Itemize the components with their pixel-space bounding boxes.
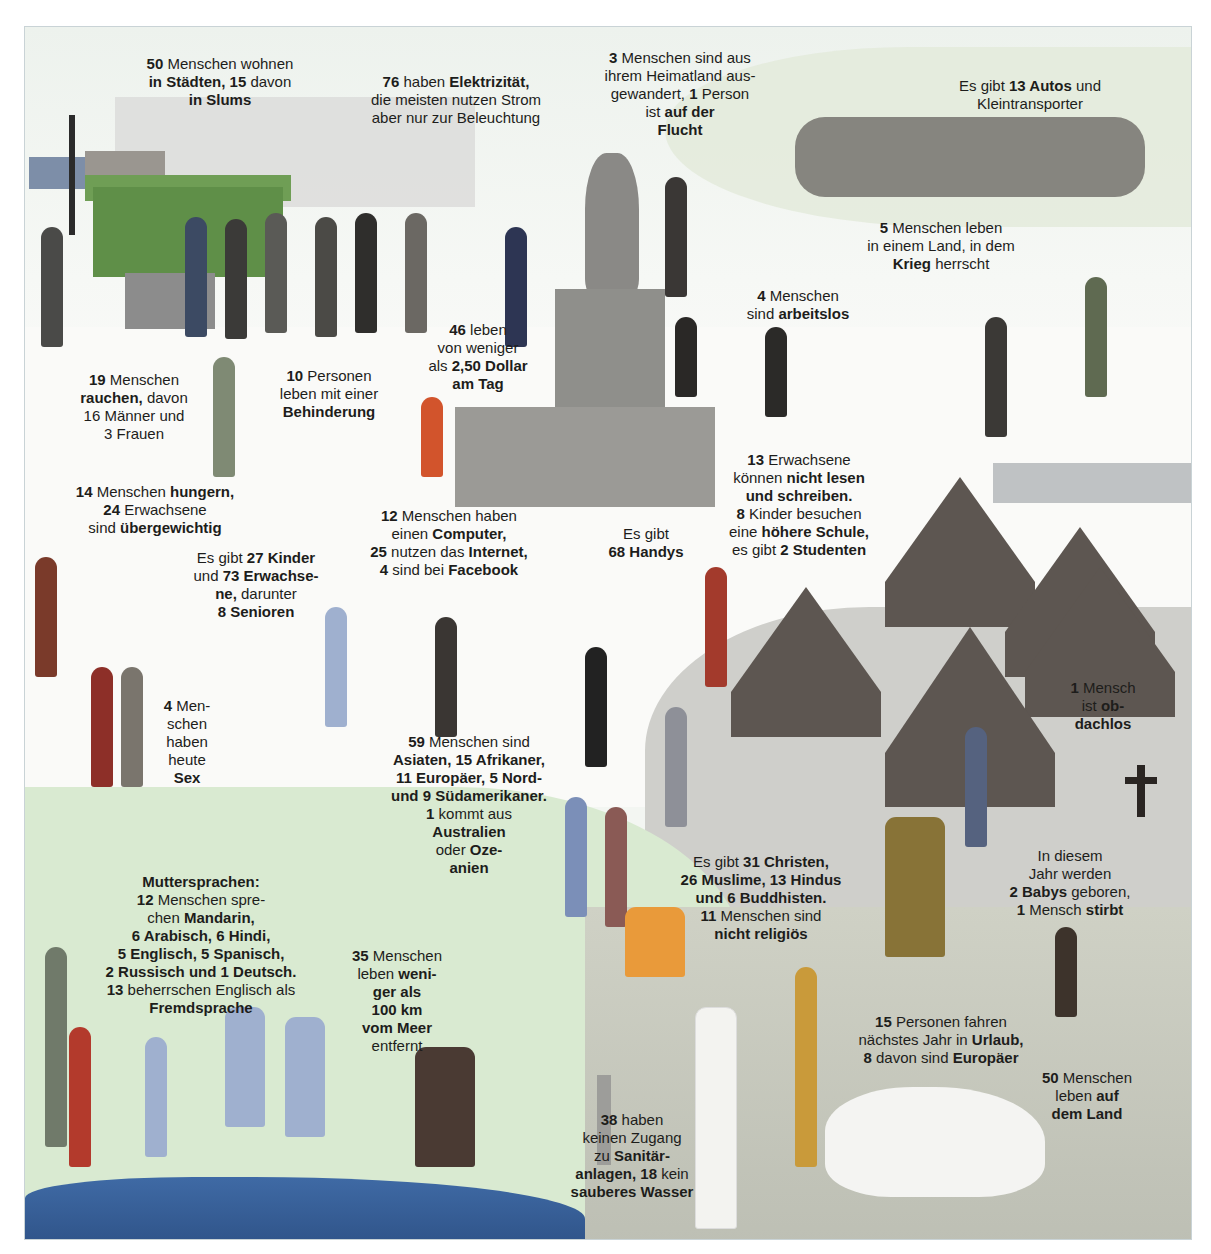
label-sanitation: 38 haben keinen Zugang zu Sanitär- anlag… bbox=[557, 1111, 707, 1201]
person-figure bbox=[1085, 277, 1107, 397]
label-smoking: 19 Menschen rauchen, davon 16 Männer und… bbox=[69, 371, 199, 443]
label-unemployed: 4 Menschen sind arbeitslos bbox=[743, 287, 853, 323]
person-figure bbox=[435, 617, 457, 737]
person-figure bbox=[605, 807, 627, 927]
person-figure bbox=[225, 219, 247, 339]
person-figure bbox=[145, 1037, 167, 1157]
person-figure bbox=[285, 1017, 325, 1137]
person-figure bbox=[225, 1007, 265, 1127]
person-figure bbox=[985, 317, 1007, 437]
label-poverty: 46 leben von weniger als 2,50 Dollar am … bbox=[423, 321, 533, 393]
person-figure bbox=[415, 1047, 475, 1167]
label-sex: 4 Men- schen haben heute Sex bbox=[157, 697, 217, 787]
person-figure bbox=[885, 817, 945, 957]
person-figure bbox=[121, 667, 143, 787]
person-figure bbox=[325, 607, 347, 727]
ox bbox=[825, 1087, 1045, 1197]
infographic-canvas: 50 Menschen wohnen in Städten, 15 davon … bbox=[24, 26, 1192, 1240]
label-war: 5 Menschen leben in einem Land, in dem K… bbox=[851, 219, 1031, 273]
label-disability: 10 Personen leben mit einer Behinderung bbox=[259, 367, 399, 421]
person-figure bbox=[705, 567, 727, 687]
person-figure bbox=[965, 727, 987, 847]
label-origin: 59 Menschen sind Asiaten, 15 Afrikaner, … bbox=[369, 733, 569, 877]
person-figure bbox=[1055, 927, 1077, 1017]
person-figure bbox=[405, 213, 427, 333]
label-hunger: 14 Menschen hungern, 24 Erwachsene sind … bbox=[55, 483, 255, 537]
person-figure bbox=[69, 1027, 91, 1167]
label-electricity: 76 haben Elektrizität, die meisten nutze… bbox=[351, 73, 561, 127]
grave-cross-icon bbox=[1137, 765, 1145, 817]
person-figure bbox=[665, 707, 687, 827]
person-figure bbox=[45, 947, 67, 1147]
label-computer: 12 Menschen haben einen Computer, 25 nut… bbox=[349, 507, 549, 579]
label-phones: Es gibt 68 Handys bbox=[601, 525, 691, 561]
label-births: In diesem Jahr werden 2 Babys geboren, 1… bbox=[1005, 847, 1135, 919]
statue-steps bbox=[455, 407, 715, 507]
person-figure bbox=[315, 217, 337, 337]
person-figure bbox=[421, 397, 443, 477]
label-languages: Muttersprachen: 12 Menschen spre- chen M… bbox=[81, 873, 321, 1017]
label-religion: Es gibt 31 Christen, 26 Muslime, 13 Hind… bbox=[661, 853, 861, 943]
label-emigrated: 3 Menschen sind aus ihrem Heimatland aus… bbox=[585, 49, 775, 139]
label-sea: 35 Menschen leben weni- ger als 100 km v… bbox=[337, 947, 457, 1055]
person-figure bbox=[35, 557, 57, 677]
label-rural: 50 Menschen leben auf dem Land bbox=[1037, 1069, 1137, 1123]
person-figure bbox=[795, 967, 817, 1167]
person-figure bbox=[585, 647, 607, 767]
person-figure bbox=[665, 177, 687, 297]
grave-cross-icon bbox=[1125, 777, 1157, 784]
cars-parking bbox=[795, 117, 1145, 197]
person-figure bbox=[265, 213, 287, 333]
person-figure bbox=[765, 327, 787, 417]
person-figure bbox=[355, 213, 377, 333]
label-literacy: 13 Erwachsene können nicht lesen und sch… bbox=[709, 451, 889, 559]
label-homeless: 1 Mensch ist ob- dachlos bbox=[1063, 679, 1143, 733]
statue bbox=[585, 153, 639, 293]
person-figure bbox=[213, 357, 235, 477]
person-figure bbox=[41, 227, 63, 347]
label-cars: Es gibt 13 Autos und Kleintransporter bbox=[945, 77, 1115, 113]
slum-shack bbox=[29, 157, 89, 189]
person-figure bbox=[91, 667, 113, 787]
person-figure bbox=[185, 217, 207, 337]
label-children: Es gibt 27 Kinder und 73 Erwachse- ne, d… bbox=[181, 549, 331, 621]
label-vacation: 15 Personen fahren nächstes Jahr in Urla… bbox=[841, 1013, 1041, 1067]
tin-roof bbox=[993, 463, 1191, 503]
person-figure bbox=[675, 317, 697, 397]
label-cities: 50 Menschen wohnen in Städten, 15 davon … bbox=[115, 55, 325, 109]
power-pole bbox=[69, 115, 75, 235]
